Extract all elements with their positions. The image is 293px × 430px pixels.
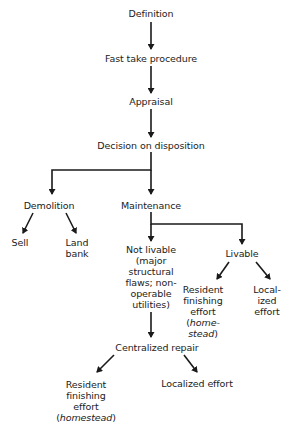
not-livable-line-6: utilities) bbox=[126, 299, 177, 310]
not-livable-line-2: (major bbox=[126, 255, 177, 266]
not-livable-line-5: operable bbox=[126, 288, 177, 299]
node-appraisal: Appraisal bbox=[129, 96, 172, 107]
land-bank-line-1: Land bbox=[66, 237, 89, 248]
diagram-edges bbox=[0, 0, 293, 430]
node-livable-localized-effort: Local- ized effort bbox=[253, 284, 280, 317]
branch-decision bbox=[52, 152, 151, 194]
node-livable: Livable bbox=[225, 248, 258, 259]
bottom-resident-line-2: finishing bbox=[56, 390, 116, 401]
arrow-livable-localized bbox=[256, 262, 270, 279]
branch-maintenance bbox=[151, 212, 242, 244]
livable-resident-line-3: effort bbox=[183, 306, 223, 317]
livable-resident-line-1: Resident bbox=[183, 284, 223, 295]
arrow-centralized-localized bbox=[184, 355, 197, 372]
not-livable-line-1: Not livable bbox=[126, 244, 177, 255]
bottom-resident-line-1: Resident bbox=[56, 379, 116, 390]
arrow-demolition-landbank bbox=[66, 213, 76, 233]
arrow-centralized-resident bbox=[97, 355, 114, 372]
node-fast-take-procedure: Fast take procedure bbox=[105, 53, 197, 64]
node-livable-resident-finishing: Resident finishing effort (home- stead) bbox=[183, 284, 223, 339]
node-not-livable: Not livable (major structural flaws; non… bbox=[126, 244, 177, 310]
not-livable-line-4: flaws; non- bbox=[126, 277, 177, 288]
node-definition: Definition bbox=[128, 8, 173, 19]
bottom-resident-line-4: (homestead) bbox=[56, 412, 116, 423]
node-maintenance: Maintenance bbox=[121, 200, 181, 211]
node-bottom-resident-finishing: Resident finishing effort (homestead) bbox=[56, 379, 116, 423]
node-sell: Sell bbox=[12, 237, 29, 248]
not-livable-line-3: structural bbox=[126, 266, 177, 277]
arrow-demolition-sell bbox=[23, 213, 33, 233]
node-bottom-localized-effort: Localized effort bbox=[161, 378, 233, 389]
livable-localized-line-1: Local- bbox=[253, 284, 280, 295]
livable-localized-line-2: ized bbox=[253, 295, 280, 306]
livable-resident-line-2: finishing bbox=[183, 295, 223, 306]
livable-localized-line-3: effort bbox=[253, 306, 280, 317]
node-centralized-repair: Centralized repair bbox=[115, 342, 198, 353]
node-demolition: Demolition bbox=[24, 200, 75, 211]
node-decision-on-disposition: Decision on disposition bbox=[97, 140, 204, 151]
node-land-bank: Land bank bbox=[66, 237, 89, 259]
livable-resident-line-4: (home- bbox=[183, 317, 223, 328]
livable-resident-line-5: stead) bbox=[183, 328, 223, 339]
arrow-livable-resident bbox=[217, 262, 229, 279]
bottom-resident-line-3: effort bbox=[56, 401, 116, 412]
land-bank-line-2: bank bbox=[66, 248, 89, 259]
